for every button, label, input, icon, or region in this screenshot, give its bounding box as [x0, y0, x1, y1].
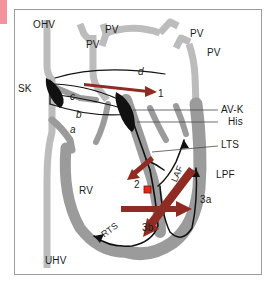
label-arrow-2: 2	[134, 180, 140, 190]
pulmonary-vein-branch-3	[160, 22, 178, 33]
internodal-tract-d	[55, 70, 165, 78]
label-pv-3: PV	[190, 29, 204, 39]
his-bundle-marker	[144, 186, 151, 193]
mitral-valve-leaflet-left	[150, 108, 166, 140]
flow-arrow-1-head	[145, 86, 157, 97]
label-tract-b: b	[76, 110, 82, 120]
flow-arrow-3a-shaft	[121, 206, 180, 212]
label-tract-d: d	[138, 67, 144, 77]
inferior-vena-cava-shape	[47, 120, 52, 268]
left-anterior-fascicle-arrowhead	[180, 140, 189, 149]
label-tract-a: a	[70, 125, 76, 135]
label-lts: LTS	[221, 140, 239, 150]
label-pv-1: PV	[86, 40, 100, 50]
tricuspid-valve-leaflet	[96, 104, 108, 142]
label-his: His	[228, 117, 243, 127]
label-arrow-3a: 3a	[200, 195, 211, 205]
aortic-outflow-shape	[189, 44, 196, 104]
label-av-k: AV-K	[221, 105, 243, 115]
label-arrow-1: 1	[158, 89, 164, 99]
label-tract-c: c	[70, 92, 75, 102]
label-uhv: UHV	[45, 256, 66, 266]
label-pv-4: PV	[207, 48, 221, 58]
label-lpf: LPF	[216, 170, 235, 180]
figure-root: OHV UHV SK PV PV PV PV AV-K His LTS LPF …	[0, 0, 276, 293]
label-arrow-3b: 3b	[142, 223, 153, 233]
label-ohv: OHV	[33, 20, 55, 30]
label-sk: SK	[18, 84, 32, 94]
label-rv: RV	[79, 186, 93, 196]
label-pv-2: PV	[105, 25, 119, 35]
